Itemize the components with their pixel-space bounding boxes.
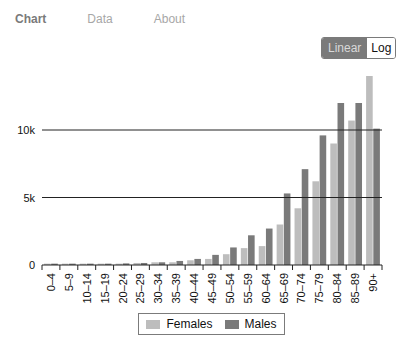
y-tick-label: 10k [17,124,35,136]
x-tick-label: 45–49 [206,273,218,304]
bar-males[interactable] [302,169,309,265]
legend-item-females[interactable]: Females [146,317,212,331]
bar-females[interactable] [259,246,266,265]
bar-males[interactable] [230,247,237,265]
bar-females[interactable] [312,181,319,265]
bar-females[interactable] [205,259,212,265]
bar-females[interactable] [330,144,337,266]
bar-males[interactable] [212,255,219,265]
x-tick-label: 75–79 [313,273,325,304]
x-tick-label: 20–24 [117,273,129,304]
bar-males[interactable] [338,103,345,265]
males-swatch [225,320,239,329]
bar-males[interactable] [248,235,255,265]
y-tick-label: 0 [29,259,35,271]
bar-males[interactable] [176,261,183,265]
bar-males[interactable] [355,103,362,265]
y-tick-label: 5k [23,192,35,204]
x-tick-label: 25–29 [134,273,146,304]
bar-males[interactable] [320,135,327,265]
females-swatch [146,320,160,329]
x-tick-label: 65–69 [278,273,290,304]
x-tick-label: 60–64 [260,273,272,304]
bar-females[interactable] [295,208,302,265]
bar-females[interactable] [241,248,248,265]
bar-females[interactable] [348,121,355,265]
legend-label-females: Females [166,317,212,331]
x-tick-label: 80–84 [331,273,343,304]
x-tick-label: 55–59 [242,273,254,304]
bar-females[interactable] [277,225,284,266]
x-tick-label: 50–54 [224,273,236,304]
x-tick-label: 30–34 [152,273,164,304]
x-tick-label: 10–14 [81,273,93,304]
x-tick-label: 5–9 [63,273,75,291]
bar-males[interactable] [373,129,380,265]
x-tick-label: 0–4 [45,273,57,291]
legend: Females Males [138,313,285,335]
bar-males[interactable] [284,193,291,265]
bar-males[interactable] [194,259,201,265]
x-tick-label: 70–74 [295,273,307,304]
bar-males[interactable] [266,229,273,265]
x-tick-label: 90+ [367,273,379,292]
bar-chart: 05k10k0–45–910–1415–1920–2425–2930–3435–… [0,0,403,310]
x-tick-label: 85–89 [349,273,361,304]
x-tick-label: 15–19 [99,273,111,304]
bar-females[interactable] [223,254,230,265]
x-tick-label: 35–39 [170,273,182,304]
legend-label-males: Males [245,317,277,331]
bar-females[interactable] [187,260,194,265]
x-tick-label: 40–44 [188,273,200,304]
bar-females[interactable] [366,76,373,265]
legend-item-males[interactable]: Males [225,317,277,331]
